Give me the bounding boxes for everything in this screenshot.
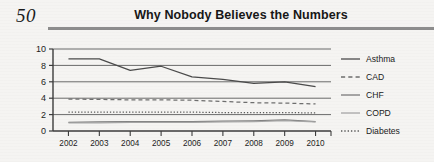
legend-label-diabetes: Diabetes [366, 126, 400, 136]
legend-label-copd: COPD [366, 108, 391, 118]
x-tick-label: 2010 [306, 139, 325, 148]
legend-label-chf: CHF [366, 90, 384, 100]
chart-svg: 0246810 20022003200420052006200720082009… [0, 40, 434, 162]
y-tick-label: 4 [41, 93, 46, 103]
data-series-group [68, 59, 315, 123]
x-tick-label: 2007 [214, 139, 233, 148]
y-tick-label: 2 [41, 110, 46, 120]
y-tick-label: 10 [36, 44, 46, 54]
x-tick-label: 2009 [276, 139, 295, 148]
y-tick-label: 8 [41, 61, 46, 71]
legend-label-asthma: Asthma [366, 54, 395, 64]
x-tick-label: 2004 [121, 139, 140, 148]
series-line-diabetes [68, 112, 315, 113]
page-title: Why Nobody Believes the Numbers [48, 8, 434, 22]
x-tick-label: 2002 [59, 139, 78, 148]
line-chart: 0246810 20022003200420052006200720082009… [0, 40, 434, 162]
x-axis-ticks: 200220032004200520062007200820092010 [59, 131, 331, 148]
chart-legend: AsthmaCADCHFCOPDDiabetes [341, 54, 400, 136]
page-number: 50 [16, 5, 36, 27]
x-tick-label: 2008 [245, 139, 264, 148]
page-header: 50 Why Nobody Believes the Numbers [0, 0, 434, 36]
series-line-cad [68, 99, 315, 104]
series-line-asthma [68, 59, 315, 87]
x-tick-label: 2005 [152, 139, 171, 148]
x-tick-label: 2003 [90, 139, 109, 148]
header-divider [48, 27, 434, 30]
x-tick-label: 2006 [183, 139, 202, 148]
y-tick-label: 6 [41, 77, 46, 87]
legend-label-cad: CAD [366, 72, 384, 82]
y-tick-label: 0 [41, 126, 46, 136]
y-axis-ticks: 0246810 [36, 44, 53, 136]
page-canvas: 50 Why Nobody Believes the Numbers 02468… [0, 0, 434, 162]
